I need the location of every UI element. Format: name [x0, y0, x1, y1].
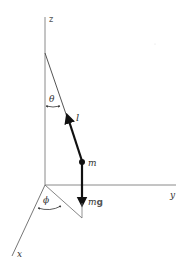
x-axis	[12, 185, 45, 256]
theta-label: θ	[49, 94, 55, 104]
string-length-label: l	[76, 112, 79, 123]
gravity-label-m: m	[88, 197, 97, 207]
gravity-label-g: g	[97, 197, 103, 207]
y-axis-label: y	[169, 190, 176, 200]
pendulum-diagram: z y x l θ m mg ϕ	[0, 0, 185, 266]
pendulum-string-upper	[45, 53, 67, 117]
projection-line	[45, 185, 82, 218]
pendulum-string-vector	[68, 118, 82, 161]
speck	[154, 43, 155, 44]
mass-label: m	[88, 158, 97, 168]
theta-arc	[46, 106, 60, 107]
phi-label: ϕ	[43, 195, 49, 205]
x-axis-label: x	[17, 249, 22, 259]
z-axis-label: z	[49, 15, 53, 24]
phi-arc	[38, 206, 61, 210]
gravity-label: mg	[88, 197, 103, 207]
